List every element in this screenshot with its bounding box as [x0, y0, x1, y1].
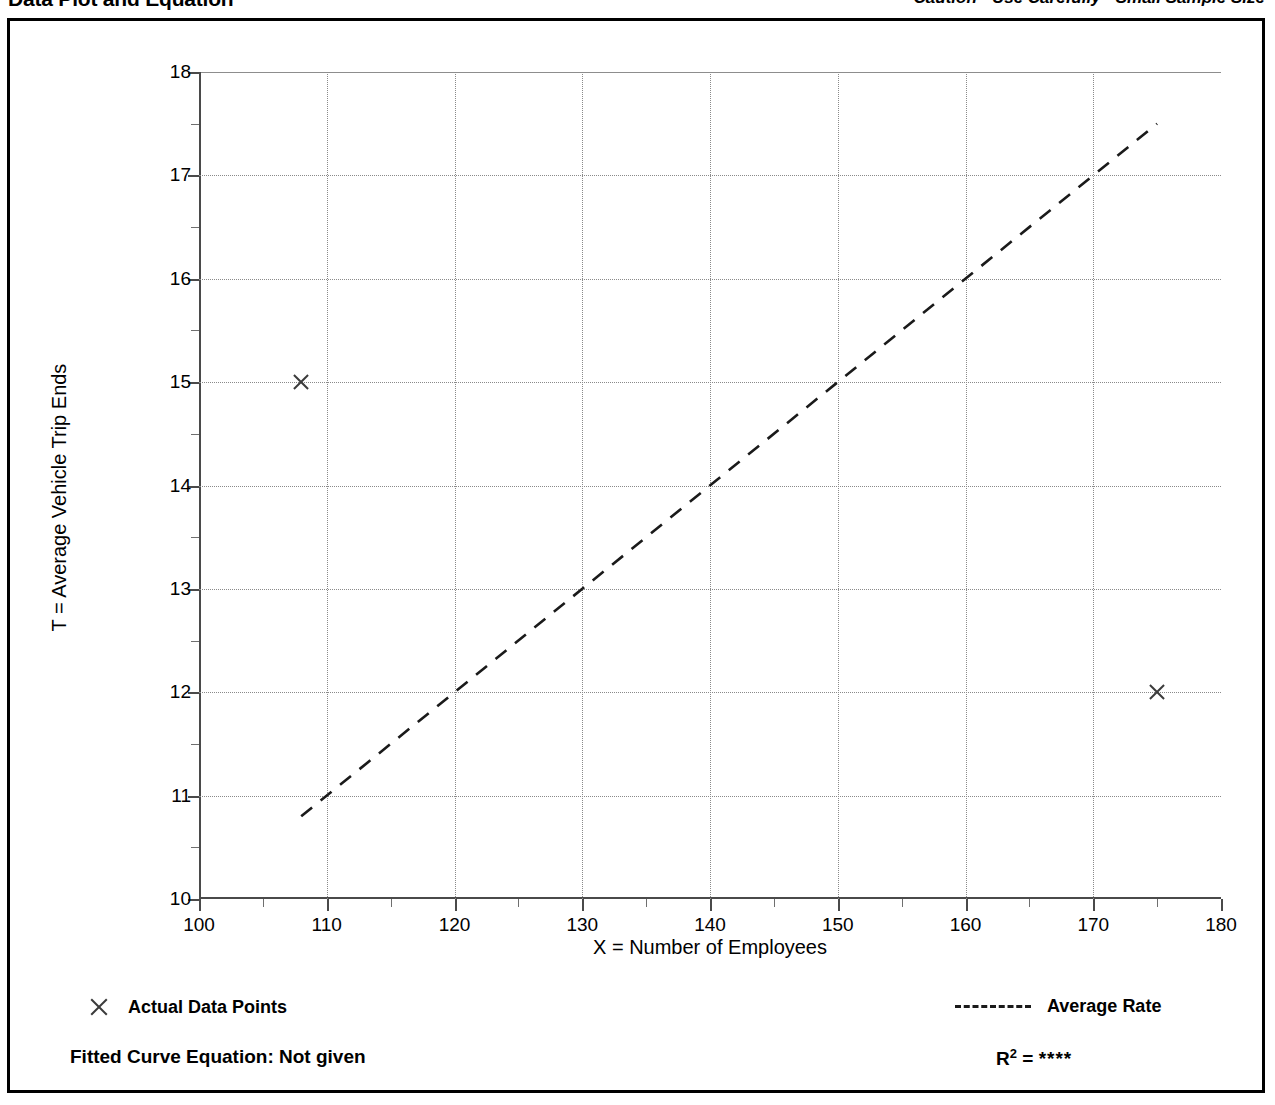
y-tick-minor	[191, 641, 199, 642]
footer: Fitted Curve Equation: Not given R2 = **…	[10, 1046, 1268, 1090]
y-tick-minor	[191, 434, 199, 435]
legend-label-average-rate: Average Rate	[1047, 996, 1161, 1017]
x-tick-minor	[1029, 899, 1030, 907]
x-tick-minor	[518, 899, 519, 907]
y-axis-title: T = Average Vehicle Trip Ends	[48, 118, 71, 878]
header: Data Plot and Equation Caution - Use Car…	[0, 0, 1275, 13]
x-tick-minor	[774, 899, 775, 907]
y-tick-label: 10	[131, 888, 191, 910]
figure-frame: T = Average Vehicle Trip Ends	[7, 18, 1265, 1093]
y-tick-label: 11	[131, 785, 191, 807]
r-squared-stars: ****	[1039, 1048, 1073, 1069]
x-tick-major	[838, 899, 840, 911]
x-tick-major	[966, 899, 968, 911]
x-tick-major	[1221, 899, 1223, 911]
y-tick-minor	[191, 227, 199, 228]
r-squared-equals: =	[1017, 1048, 1039, 1069]
x-tick-label: 110	[287, 914, 367, 936]
x-axis-title: X = Number of Employees	[199, 936, 1221, 959]
r-squared-value: R2 = ****	[996, 1046, 1072, 1070]
dashed-line-icon	[955, 1005, 1031, 1008]
chart-area: T = Average Vehicle Trip Ends	[10, 21, 1268, 1096]
y-tick-label: 17	[131, 164, 191, 186]
legend-label-data-points: Actual Data Points	[128, 997, 287, 1018]
r-squared-exponent: 2	[1010, 1046, 1017, 1061]
legend-item-data-points: Actual Data Points	[88, 996, 287, 1018]
y-tick-label: 18	[131, 61, 191, 83]
y-tick-label: 13	[131, 578, 191, 600]
x-marker-icon	[88, 996, 110, 1018]
r-squared-symbol: R	[996, 1048, 1010, 1069]
x-tick-label: 100	[159, 914, 239, 936]
page-title: Data Plot and Equation	[8, 0, 233, 11]
plot-box: 10 11 12 13 14 15 16 17 18 100 110 120 1…	[199, 72, 1221, 899]
trend-line	[199, 72, 1221, 899]
y-tick-minor	[191, 124, 199, 125]
x-tick-major	[327, 899, 329, 911]
x-tick-major	[710, 899, 712, 911]
caution-note: Caution - Use Carefully - Small Sample S…	[914, 0, 1265, 8]
x-tick-label: 170	[1053, 914, 1133, 936]
x-tick-major	[1093, 899, 1095, 911]
x-tick-label: 140	[670, 914, 750, 936]
x-tick-minor	[1157, 899, 1158, 907]
data-point-marker	[291, 372, 311, 392]
x-tick-label: 150	[798, 914, 878, 936]
x-tick-label: 130	[542, 914, 622, 936]
y-tick-minor	[191, 537, 199, 538]
x-tick-label: 120	[415, 914, 495, 936]
y-tick-label: 12	[131, 681, 191, 703]
x-tick-minor	[646, 899, 647, 907]
x-tick-major	[582, 899, 584, 911]
y-tick-minor	[191, 847, 199, 848]
x-tick-major	[455, 899, 457, 911]
y-tick-label: 15	[131, 371, 191, 393]
x-tick-minor	[391, 899, 392, 907]
legend: Actual Data Points Average Rate	[10, 996, 1268, 1036]
x-tick-major	[199, 899, 201, 911]
y-tick-label: 14	[131, 475, 191, 497]
x-tick-minor	[902, 899, 903, 907]
data-point-marker	[1147, 682, 1167, 702]
fitted-curve-equation: Fitted Curve Equation: Not given	[70, 1046, 366, 1068]
y-tick-label: 16	[131, 268, 191, 290]
plot-inner: 10 11 12 13 14 15 16 17 18 100 110 120 1…	[199, 72, 1221, 899]
legend-item-average-rate: Average Rate	[955, 996, 1161, 1017]
y-tick-minor	[191, 330, 199, 331]
x-tick-label: 180	[1181, 914, 1261, 936]
y-tick-minor	[191, 744, 199, 745]
x-tick-label: 160	[926, 914, 1006, 936]
x-tick-minor	[263, 899, 264, 907]
